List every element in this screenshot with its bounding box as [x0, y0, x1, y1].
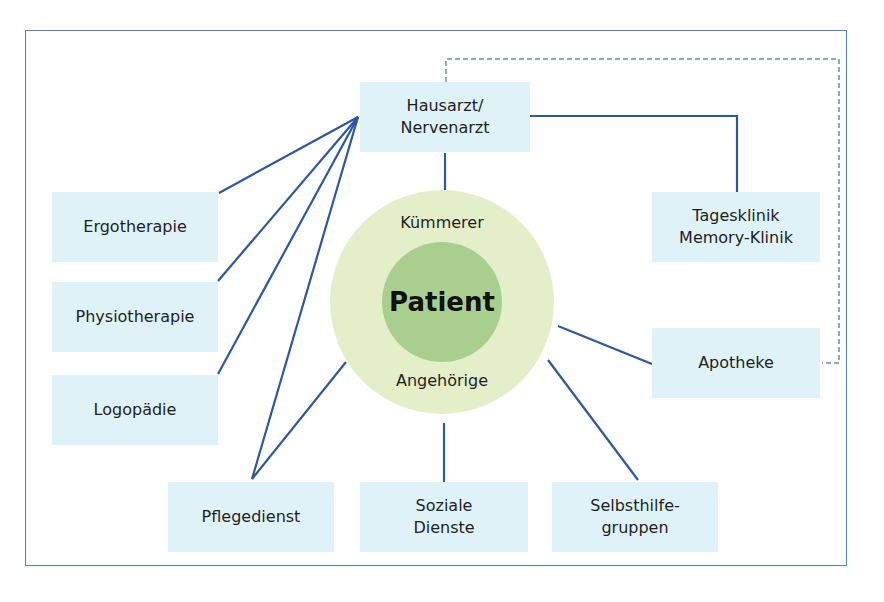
node-tagesklinik-line1: Tagesklinik — [679, 205, 793, 227]
node-selbsthilfegruppen: Selbsthilfe- gruppen — [552, 482, 718, 552]
node-ergotherapie-label: Ergotherapie — [83, 216, 186, 238]
node-logopaedie: Logopädie — [52, 375, 218, 445]
node-physiotherapie: Physiotherapie — [52, 282, 218, 352]
line-hausarzt-tagesklinik — [529, 116, 737, 192]
node-apotheke: Apotheke — [652, 328, 820, 398]
node-soziale-dienste-line2: Dienste — [413, 517, 474, 539]
ring-label-angehoerige: Angehörige — [330, 371, 554, 390]
node-logopaedie-label: Logopädie — [94, 399, 177, 421]
node-apotheke-label: Apotheke — [698, 352, 774, 374]
node-physiotherapie-label: Physiotherapie — [76, 306, 195, 328]
node-ergotherapie: Ergotherapie — [52, 192, 218, 262]
node-pflegedienst: Pflegedienst — [168, 482, 334, 552]
node-hausarzt-line1: Hausarzt/ — [401, 95, 490, 117]
patient-title: Patient — [382, 242, 502, 362]
node-hausarzt: Hausarzt/ Nervenarzt — [360, 82, 530, 152]
node-hausarzt-line2: Nervenarzt — [401, 117, 490, 139]
node-soziale-dienste: Soziale Dienste — [360, 482, 528, 552]
node-selbsthilfe-line2: gruppen — [590, 517, 680, 539]
node-soziale-dienste-line1: Soziale — [413, 495, 474, 517]
node-tagesklinik-line2: Memory-Klinik — [679, 227, 793, 249]
ring-label-kuemmerer: Kümmerer — [330, 213, 554, 232]
line-patient-apotheke — [558, 326, 652, 364]
node-tagesklinik: Tagesklinik Memory-Klinik — [652, 192, 820, 262]
node-pflegedienst-label: Pflegedienst — [202, 506, 301, 528]
node-selbsthilfe-line1: Selbsthilfe- — [590, 495, 680, 517]
line-hausarzt-physiotherapie — [218, 117, 358, 281]
line-patient-selbsthilfe — [548, 360, 638, 480]
